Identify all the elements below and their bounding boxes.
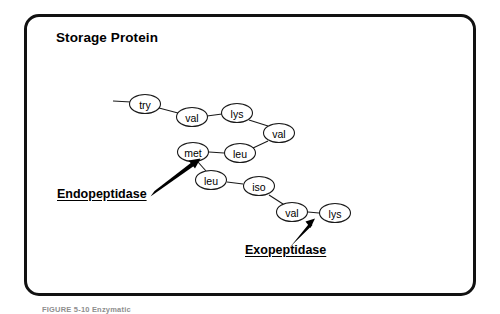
residue-node-group: try val lys val leu met [130,95,351,223]
residue-node-lys1[interactable]: lys [222,104,253,123]
residue-node-val3[interactable]: val [277,203,308,222]
bond-val3-lys2 [308,212,319,213]
bond-val1-lys1 [207,114,222,116]
bond-met-leu2 [198,162,206,171]
endopeptidase-label: Endopeptidase [57,187,147,201]
residue-label: leu [204,175,218,187]
residue-node-lys2[interactable]: lys [320,204,351,223]
residue-node-try[interactable]: try [130,95,161,114]
residue-node-val1[interactable]: val [177,108,208,127]
residue-label: lys [329,208,342,220]
residue-label: val [285,207,298,219]
residue-label: iso [252,181,266,193]
bond-lys1-val2 [249,120,268,126]
residue-node-val2[interactable]: val [264,124,295,143]
bond-val2-leu1 [253,141,268,148]
residue-label: lys [231,108,244,120]
bond-leu2-iso [227,182,243,184]
bond-iso-val3 [269,195,283,204]
residue-label: val [185,112,198,124]
residue-label: val [272,128,285,140]
residue-node-iso[interactable]: iso [244,177,275,196]
bond-tail-try [113,101,131,102]
endopeptidase-arrow-shaft [151,161,197,197]
bond-try-val1 [159,108,178,113]
residue-node-met[interactable]: met [178,143,209,162]
residue-node-leu2[interactable]: leu [196,171,227,190]
peptide-chain-diagram: try val lys val leu met [0,0,500,314]
figure-canvas: Storage Protein try val [0,0,500,314]
figure-caption: FIGURE 5-10 Enzymatic [42,305,131,314]
exopeptidase-label: Exopeptidase [245,243,326,257]
residue-label: leu [233,148,247,160]
residue-node-leu1[interactable]: leu [225,144,256,163]
residue-label: try [139,99,151,111]
residue-label: met [184,147,202,159]
bond-leu1-met [209,152,224,153]
endopeptidase-arrow [151,159,201,197]
